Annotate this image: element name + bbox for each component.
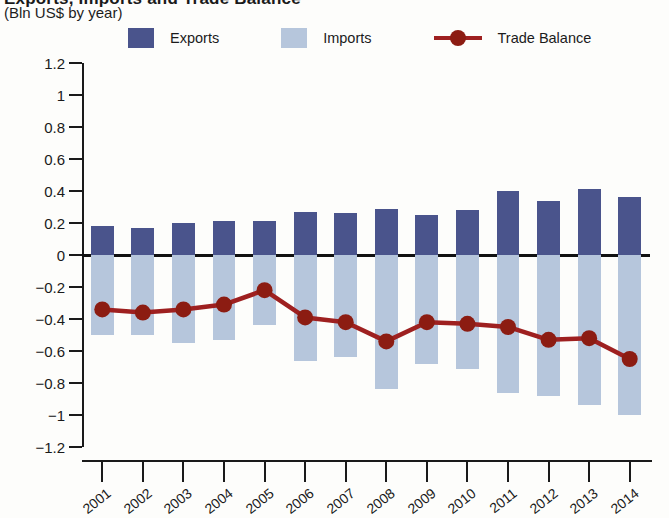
trade-balance-point-2005[interactable] — [257, 282, 273, 298]
legend-item-imports[interactable]: Imports — [281, 28, 371, 48]
x-tick-label-2006: 2006 — [271, 485, 317, 518]
x-tick-mark — [182, 460, 184, 482]
trade-balance-point-2002[interactable] — [135, 305, 151, 321]
x-tick-mark — [264, 460, 266, 482]
trade-balance-point-2008[interactable] — [378, 333, 394, 349]
y-tick-mark — [69, 350, 82, 352]
x-tick-mark — [507, 460, 509, 482]
y-tick-label: 0 — [57, 247, 65, 264]
y-tick-label: 1.2 — [44, 55, 65, 72]
y-tick-label: −0.6 — [35, 343, 65, 360]
y-tick-mark — [69, 382, 82, 384]
y-tick-mark — [69, 94, 82, 96]
y-tick-label: 1 — [57, 87, 65, 104]
legend-swatch-icon — [281, 28, 307, 48]
trade-balance-point-2009[interactable] — [419, 314, 435, 330]
x-tick-label-2013: 2013 — [555, 485, 601, 518]
y-tick-mark — [69, 62, 82, 64]
legend-label: Imports — [323, 30, 371, 46]
x-tick-mark — [385, 460, 387, 482]
trade-balance-line — [102, 290, 629, 359]
x-tick-mark — [345, 460, 347, 482]
x-tick-mark — [101, 460, 103, 482]
y-tick-label: 0.2 — [44, 215, 65, 232]
y-tick-mark — [69, 126, 82, 128]
x-tick-mark — [548, 460, 550, 482]
x-axis-line — [82, 460, 652, 462]
x-tick-label-2008: 2008 — [352, 485, 398, 518]
x-tick-label-2003: 2003 — [149, 485, 195, 518]
plot-area: 1.210.80.60.40.20−0.2−0.4−0.6−0.8−1−1.2 — [82, 63, 650, 447]
legend-line-marker-icon — [434, 29, 482, 47]
x-tick-mark — [588, 460, 590, 482]
y-tick-label: 0.8 — [44, 119, 65, 136]
legend-label: Trade Balance — [498, 30, 592, 46]
x-tick-label-2005: 2005 — [230, 485, 276, 518]
x-tick-label-2001: 2001 — [68, 485, 114, 518]
y-tick-mark — [69, 158, 82, 160]
legend-line-dot — [450, 30, 466, 46]
x-tick-mark — [142, 460, 144, 482]
y-tick-label: −1 — [48, 407, 65, 424]
x-tick-mark — [223, 460, 225, 482]
trade-balance-point-2010[interactable] — [459, 316, 475, 332]
chart-subtitle: (Bln US$ by year) — [4, 4, 122, 21]
trade-balance-point-2001[interactable] — [94, 301, 110, 317]
legend-item-trade-balance[interactable]: Trade Balance — [434, 29, 592, 47]
y-tick-label: −1.2 — [35, 439, 65, 456]
trade-balance-line-series — [82, 63, 650, 447]
y-tick-label: 0.4 — [44, 183, 65, 200]
trade-balance-point-2013[interactable] — [581, 330, 597, 346]
y-tick-label: 0.6 — [44, 151, 65, 168]
legend-item-exports[interactable]: Exports — [128, 28, 219, 48]
x-tick-label-2014: 2014 — [595, 485, 641, 518]
y-tick-mark — [69, 318, 82, 320]
x-tick-label-2011: 2011 — [474, 485, 520, 518]
trade-balance-point-2007[interactable] — [338, 314, 354, 330]
x-tick-mark — [466, 460, 468, 482]
trade-balance-point-2003[interactable] — [175, 301, 191, 317]
y-tick-mark — [69, 254, 82, 256]
legend-swatch-icon — [128, 28, 154, 48]
chart-legend: ExportsImportsTrade Balance — [128, 28, 591, 48]
x-tick-label-2004: 2004 — [190, 485, 236, 518]
legend-label: Exports — [170, 30, 219, 46]
trade-balance-point-2012[interactable] — [541, 332, 557, 348]
y-tick-mark — [69, 286, 82, 288]
y-tick-label: −0.8 — [35, 375, 65, 392]
trade-balance-point-2004[interactable] — [216, 297, 232, 313]
trade-balance-point-2014[interactable] — [622, 351, 638, 367]
y-tick-label: −0.4 — [35, 311, 65, 328]
trade-balance-point-2006[interactable] — [297, 309, 313, 325]
y-tick-label: −0.2 — [35, 279, 65, 296]
y-tick-mark — [69, 222, 82, 224]
y-tick-mark — [69, 190, 82, 192]
trade-balance-point-2011[interactable] — [500, 319, 516, 335]
y-tick-mark — [69, 446, 82, 448]
x-tick-mark — [304, 460, 306, 482]
y-tick-mark — [69, 414, 82, 416]
x-tick-mark — [426, 460, 428, 482]
x-tick-label-2010: 2010 — [433, 485, 479, 518]
x-tick-mark — [629, 460, 631, 482]
x-tick-label-2012: 2012 — [514, 485, 560, 518]
